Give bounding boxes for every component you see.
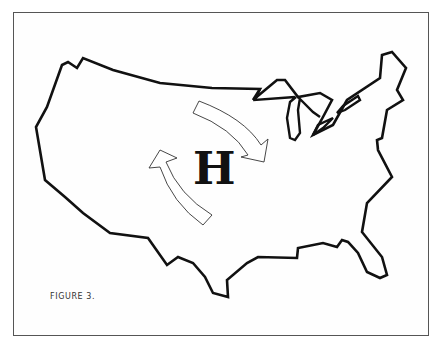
figure-caption: FIGURE 3. xyxy=(50,292,95,301)
great-lakes xyxy=(255,89,360,140)
high-pressure-label: H xyxy=(193,142,236,195)
